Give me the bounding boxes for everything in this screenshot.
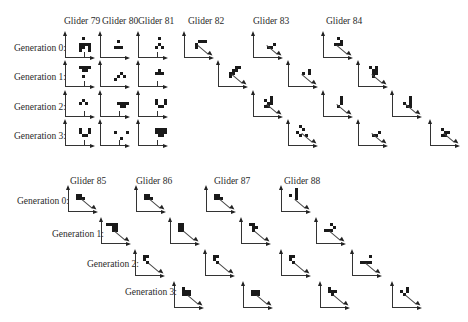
arrow-up-icon — [279, 249, 283, 254]
glider-87-gen-0-panel — [206, 186, 234, 212]
glider-88-gen-1-panel — [316, 218, 344, 244]
y-axis — [392, 284, 393, 308]
x-axis — [170, 243, 196, 244]
x-axis — [100, 145, 126, 146]
glider-87-gen-1-panel — [241, 218, 269, 244]
arrow-right-icon — [163, 144, 168, 148]
live-cell — [406, 290, 409, 293]
x-axis — [65, 57, 91, 58]
live-cell — [79, 102, 82, 105]
arrow-up-icon — [321, 90, 325, 95]
arrow-right-icon — [163, 115, 168, 119]
live-cell — [126, 131, 129, 134]
x-axis — [253, 116, 279, 117]
x-axis — [243, 307, 269, 308]
glider-80-gen-1-panel — [100, 61, 128, 87]
arrow-up-icon — [251, 31, 255, 36]
live-cell — [155, 46, 158, 49]
live-cell — [216, 255, 219, 258]
y-axis — [136, 188, 137, 212]
direction-tick — [157, 52, 158, 57]
y-axis — [243, 284, 244, 308]
live-cell — [375, 72, 378, 75]
glider-86-gen-0-panel — [136, 186, 164, 212]
generation-label: Generation 0: — [17, 196, 69, 206]
live-cell — [255, 226, 258, 229]
arrow-up-icon — [98, 119, 102, 124]
live-cell — [114, 131, 117, 134]
generation-label: Generation 2: — [87, 259, 139, 269]
y-axis — [174, 284, 175, 308]
x-axis — [430, 145, 456, 146]
y-axis — [288, 122, 289, 146]
y-axis — [205, 252, 206, 276]
arrow-up-icon — [286, 60, 290, 65]
glider-83-gen-1-panel — [288, 61, 316, 87]
arrow-up-icon — [321, 31, 325, 36]
arrow-up-icon — [172, 281, 176, 286]
glider-80-gen-0-panel — [100, 32, 128, 58]
arrow-up-icon — [350, 249, 354, 254]
arrow-right-icon — [90, 144, 95, 148]
arrow-up-icon — [136, 90, 140, 95]
x-axis — [218, 86, 244, 87]
live-cell — [158, 37, 161, 40]
glider-header: Glider 82 — [188, 16, 224, 26]
live-cell — [340, 43, 343, 46]
glider-header: Glider 79 — [64, 16, 100, 26]
y-axis — [241, 220, 242, 244]
direction-tick — [84, 111, 85, 116]
glider-81-gen-2-panel — [138, 91, 166, 117]
arrow-right-icon — [90, 85, 95, 89]
glider-header: Glider 88 — [284, 176, 320, 186]
y-axis — [358, 122, 359, 146]
arrow-right-icon — [125, 85, 130, 89]
glider-83-gen-3-panel — [358, 120, 386, 146]
generation-label: Generation 0: — [14, 43, 66, 53]
glider-88-gen-2-panel — [352, 250, 380, 276]
x-axis — [65, 145, 91, 146]
arrow-right-icon — [125, 144, 130, 148]
y-axis — [392, 93, 393, 117]
live-cell — [447, 131, 450, 134]
x-axis — [281, 211, 307, 212]
live-cell — [82, 37, 85, 40]
glider-80-gen-3-panel — [100, 120, 128, 146]
x-axis — [323, 57, 349, 58]
live-cell — [238, 66, 241, 69]
arrow-up-icon — [98, 31, 102, 36]
x-axis — [253, 57, 279, 58]
y-axis — [138, 122, 139, 146]
live-cell — [270, 102, 273, 105]
glider-85-gen-0-panel — [68, 186, 96, 212]
y-axis — [253, 93, 254, 117]
y-axis — [100, 93, 101, 117]
arrow-up-icon — [136, 119, 140, 124]
y-axis — [65, 93, 66, 117]
x-axis — [68, 211, 94, 212]
y-axis — [170, 220, 171, 244]
y-axis — [323, 34, 324, 58]
live-cell — [164, 131, 167, 134]
arrow-right-icon — [163, 85, 168, 89]
arrow-right-icon — [163, 56, 168, 60]
glider-header: Glider 86 — [136, 176, 172, 186]
arrow-up-icon — [63, 119, 67, 124]
live-cell — [378, 131, 381, 134]
live-cell — [292, 255, 295, 258]
arrow-right-icon — [90, 115, 95, 119]
x-axis — [100, 57, 126, 58]
glider-84-gen-2-panel — [392, 91, 420, 117]
y-axis — [218, 63, 219, 87]
x-axis — [101, 243, 127, 244]
glider-88-gen-0-panel — [281, 186, 309, 212]
arrow-up-icon — [279, 185, 283, 190]
x-axis — [241, 243, 267, 244]
y-axis — [65, 63, 66, 87]
live-cell — [123, 105, 126, 108]
x-axis — [138, 57, 164, 58]
glider-header: Glider 85 — [70, 176, 106, 186]
glider-84-gen-3-panel — [430, 120, 458, 146]
y-axis — [316, 220, 317, 244]
glider-80-gen-2-panel — [100, 91, 128, 117]
